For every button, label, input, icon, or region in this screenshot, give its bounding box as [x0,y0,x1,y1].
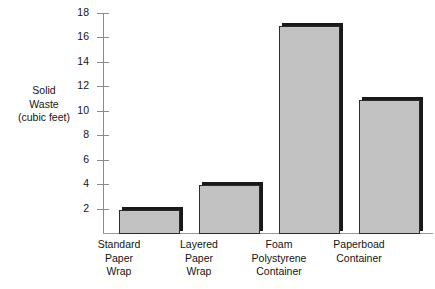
y-axis-tick-label-12: 12 [77,79,89,92]
y-axis-tick-4: 4 [97,184,109,185]
y-axis-tick-10: 10 [97,111,109,112]
solid-waste-bar-chart: Solid Waste (cubic feet) 18 16 14 12 10 … [0,0,435,289]
bar-foam-polystyrene-container [279,26,340,234]
y-axis-tick-label-16: 16 [77,30,89,43]
y-axis-tick-label-4: 4 [83,177,89,190]
y-axis-tick-14: 14 [97,62,109,63]
y-axis-tick-18: 18 [97,13,109,14]
x-axis-category-label-2-line-3: Container [231,265,327,279]
x-axis-category-label-3-line-1: Paperboad [311,238,407,252]
x-axis-category-label-3: Paperboad Container [311,238,407,265]
plot-area: 18 16 14 12 10 8 6 4 2 [103,13,435,234]
y-axis-tick-6: 6 [97,160,109,161]
y-axis-tick-label-14: 14 [77,55,89,68]
y-axis-title-line-1: Solid [0,84,88,98]
bar-paperboad-container [359,100,420,234]
y-axis-title: Solid Waste (cubic feet) [0,84,88,125]
bar-standard-paper-wrap [119,210,180,234]
y-axis-tick-label-6: 6 [83,153,89,166]
y-axis-line [103,13,104,233]
y-axis-tick-8: 8 [97,135,109,136]
y-axis-tick-label-8: 8 [83,128,89,141]
y-axis-tick-label-10: 10 [77,104,89,117]
bar-layered-paper-wrap [199,185,260,234]
y-axis-tick-label-18: 18 [77,6,89,19]
y-axis-tick-16: 16 [97,37,109,38]
y-axis-tick-2: 2 [97,209,109,210]
y-axis-tick-12: 12 [97,86,109,87]
x-axis-category-label-3-line-2: Container [311,252,407,266]
y-axis-tick-label-2: 2 [83,202,89,215]
y-axis-title-line-3: (cubic feet) [0,111,88,125]
y-axis-title-line-2: Waste [0,98,88,112]
